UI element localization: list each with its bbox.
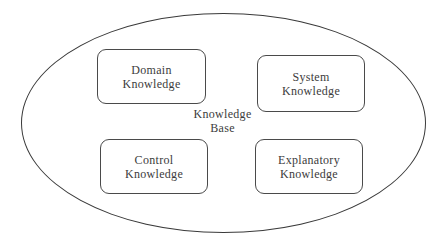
box-system-knowledge: System Knowledge xyxy=(257,55,365,112)
box-control-knowledge-label: Control Knowledge xyxy=(125,153,183,181)
box-explanatory-knowledge-label: Explanatory Knowledge xyxy=(278,153,340,181)
knowledge-base-label: Knowledge Base xyxy=(170,107,275,135)
box-domain-knowledge: Domain Knowledge xyxy=(97,49,206,104)
knowledge-base-diagram: Domain Knowledge System Knowledge Contro… xyxy=(0,0,445,243)
box-control-knowledge: Control Knowledge xyxy=(100,139,208,194)
box-domain-knowledge-label: Domain Knowledge xyxy=(122,63,180,91)
box-system-knowledge-label: System Knowledge xyxy=(282,70,340,98)
box-explanatory-knowledge: Explanatory Knowledge xyxy=(255,139,363,194)
